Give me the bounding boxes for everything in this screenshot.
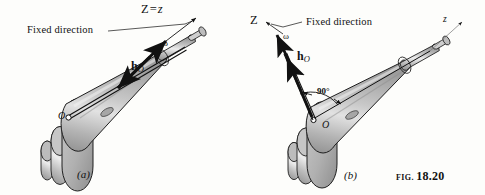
- panel-a-momentum-label: hO: [131, 60, 144, 73]
- panel-a-point-o-marker: [66, 115, 71, 120]
- panel-b-artwork: [266, 22, 462, 188]
- figure-caption-prefix: FIG.: [396, 173, 414, 182]
- panel-b-point-o-label: O: [322, 120, 329, 130]
- panel-b-momentum-label: hO: [297, 50, 310, 63]
- panel-b-axis-z-label: z: [443, 15, 447, 25]
- panel-b-momentum-subscript: O: [304, 54, 310, 64]
- panel-b-omega-vector: [277, 35, 295, 75]
- panel-b-cone-body: [306, 60, 409, 153]
- panel-a-momentum-subscript: O: [138, 64, 144, 74]
- panel-b-axis-Z: [266, 22, 283, 34]
- panel-a-point-o-label: O: [58, 111, 65, 121]
- panel-a-axis-label: Z=z: [141, 3, 163, 16]
- panel-a-fixed-direction-label: Fixed direction: [27, 25, 93, 36]
- panel-a-momentum-symbol: h: [131, 59, 138, 73]
- panel-b-sub-caption: (b): [344, 170, 357, 181]
- panel-a-tip-shaft: [188, 26, 208, 41]
- panel-b-fixed-direction-leader: [271, 22, 302, 27]
- panel-b-fixed-direction-label: Fixed direction: [306, 17, 372, 28]
- panel-a-artwork: [41, 18, 208, 191]
- panel-a-shaft: [152, 35, 195, 68]
- figure-caption: FIG. 18.20: [396, 170, 444, 182]
- panel-b-axis-Z-label: Z: [250, 14, 258, 27]
- panel-a-axis-lower: z: [158, 2, 163, 16]
- panel-a-sub-caption: (a): [77, 169, 90, 180]
- panel-a-omega-label: ω: [162, 39, 168, 48]
- figure-caption-number: 18.20: [416, 169, 444, 183]
- panel-b-momentum-symbol: h: [297, 49, 304, 63]
- panel-b-angle-label: 90°: [317, 87, 330, 96]
- figure-18-20: Fixed direction Z=z ω hO O (a) Z Fixed d…: [0, 0, 485, 195]
- panel-b-tip-shaft: [432, 35, 451, 49]
- panel-b-omega-label: ω: [283, 32, 289, 41]
- panel-a-axis-equals: =: [149, 2, 158, 16]
- panel-a-axis-upper: Z: [141, 2, 149, 16]
